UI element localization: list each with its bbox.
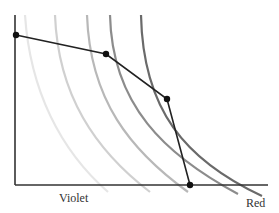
red-label: Red	[246, 196, 265, 211]
data-points	[13, 32, 193, 188]
data-point	[13, 32, 19, 38]
arc-2-curve	[55, 15, 150, 192]
spectrum-curves	[25, 15, 262, 196]
arc-4-curve	[110, 15, 238, 194]
data-polyline	[16, 35, 190, 185]
diagram	[0, 0, 279, 213]
data-point	[187, 182, 193, 188]
data-point	[164, 96, 170, 102]
axes	[15, 15, 268, 185]
arc-1-curve	[25, 15, 108, 192]
arc-3-curve	[87, 15, 188, 192]
data-point	[103, 51, 109, 57]
violet-label: Violet	[59, 191, 88, 206]
